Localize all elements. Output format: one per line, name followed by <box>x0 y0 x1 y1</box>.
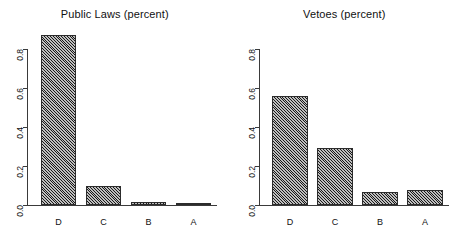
bar-B <box>362 192 397 205</box>
chart-panel-public-laws: Public Laws (percent) 0.00.20.40.60.8 DC… <box>0 0 230 242</box>
page-title: Vetoes (percent) <box>230 8 459 20</box>
x-axis-label-text: A <box>171 217 216 227</box>
x-axis-label-text: C <box>313 217 358 227</box>
x-axis-label-B: B <box>126 205 171 206</box>
y-axis-tick-label-text: 0.8 <box>16 49 25 61</box>
y-axis-tick-label: 0.0 <box>19 205 20 206</box>
y-axis-tick-label: 0.2 <box>19 166 20 167</box>
x-axis-label-C: C <box>313 205 358 206</box>
x-axis-label-text: B <box>126 217 171 227</box>
plot-area-public-laws: 0.00.20.40.60.8 DCBA <box>36 45 216 206</box>
y-axis-tick-label: 0.0 <box>251 205 252 206</box>
y-axis-tick-label-text: 0.0 <box>16 205 25 217</box>
y-axis-tick-label: 0.8 <box>19 49 20 50</box>
x-axis-label-D: D <box>36 205 81 206</box>
figure-panel-container: Public Laws (percent) 0.00.20.40.60.8 DC… <box>0 0 459 242</box>
y-axis-tick-label-text: 0.6 <box>247 88 256 100</box>
y-axis-tick-label: 0.4 <box>251 127 252 128</box>
y-axis-tick-label: 0.6 <box>19 88 20 89</box>
bar-series: DCBA <box>268 45 448 205</box>
y-axis-tick-label-text: 0.6 <box>16 88 25 100</box>
y-axis-tick-label-text: 0.0 <box>247 205 256 217</box>
x-axis-label-text: D <box>36 217 81 227</box>
y-axis-tick-label-text: 0.4 <box>247 127 256 139</box>
x-axis-label-text: D <box>268 217 313 227</box>
plot-area-vetoes: 0.00.20.40.60.8 DCBA <box>268 45 448 206</box>
x-axis-label-D: D <box>268 205 313 206</box>
y-axis-tick-label: 0.4 <box>19 127 20 128</box>
bar-A <box>407 190 442 205</box>
bar-C <box>86 186 121 206</box>
x-axis-label-C: C <box>81 205 126 206</box>
chart-panel-vetoes: Vetoes (percent) 0.00.20.40.60.8 DCBA <box>230 0 459 242</box>
x-axis-label-text: A <box>403 217 448 227</box>
bar-series: DCBA <box>36 45 216 205</box>
page-title: Public Laws (percent) <box>0 8 230 20</box>
y-axis-tick-label-text: 0.8 <box>247 49 256 61</box>
x-axis-label-A: A <box>403 205 448 206</box>
bar-C <box>317 148 352 205</box>
y-axis-tick-label-text: 0.4 <box>16 127 25 139</box>
x-axis-label-B: B <box>358 205 403 206</box>
y-axis-tick-label-text: 0.2 <box>247 166 256 178</box>
x-axis-label-text: B <box>358 217 403 227</box>
x-axis-label-text: C <box>81 217 126 227</box>
bar-D <box>272 96 307 205</box>
y-axis-tick-label-text: 0.2 <box>16 166 25 178</box>
bar-D <box>41 35 76 205</box>
x-axis-label-A: A <box>171 205 216 206</box>
y-axis-tick-label: 0.2 <box>251 166 252 167</box>
y-axis-tick-label: 0.8 <box>251 49 252 50</box>
y-axis-tick-label: 0.6 <box>251 88 252 89</box>
